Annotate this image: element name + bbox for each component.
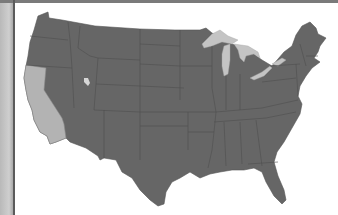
states-layer — [24, 12, 326, 206]
us-map — [0, 0, 338, 215]
us-mainland — [24, 12, 326, 206]
